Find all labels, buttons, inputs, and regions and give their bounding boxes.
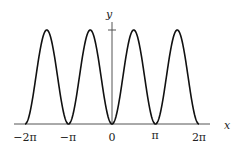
tick-label: π xyxy=(151,129,158,142)
tick-label: −2π xyxy=(13,131,36,144)
tick-label: 0 xyxy=(109,131,116,144)
tick-label: −π xyxy=(60,131,76,144)
y-axis-label: y xyxy=(105,8,113,21)
chart: y x −2π −π 0 π 2π xyxy=(0,0,234,146)
x-axis-label: x xyxy=(224,119,231,132)
tick-label: 2π xyxy=(192,131,206,144)
